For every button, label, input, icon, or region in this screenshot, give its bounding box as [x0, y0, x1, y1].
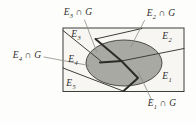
label-region-e5-sub: 5	[72, 83, 75, 90]
label-e1-intersect-g-rest: ∩ G	[157, 98, 176, 108]
label-e3-intersect-g: E3 ∩ G	[64, 8, 93, 18]
label-region-e1: E1	[162, 72, 171, 82]
label-region-e4: E4	[68, 55, 77, 65]
label-e2-intersect-g-rest: ∩ G	[156, 8, 175, 18]
label-e3-intersect-g-sub: 3	[70, 12, 73, 19]
label-region-e3: E3	[71, 30, 80, 40]
label-e4-intersect-g: E4 ∩ G	[13, 51, 42, 61]
label-e4-intersect-g-sub: 4	[19, 55, 22, 62]
label-region-e4-sub: 4	[74, 59, 77, 66]
label-e1-intersect-g-sub: 1	[154, 103, 157, 110]
label-e2-intersect-g: E2 ∩ G	[147, 9, 176, 19]
label-region-e2-sub: 2	[168, 36, 171, 43]
label-e3-intersect-g-rest: ∩ G	[73, 7, 92, 17]
label-region-e5: E5	[66, 79, 75, 89]
total-probability-diagram: E3 ∩ G E2 ∩ G E4 ∩ G E1 ∩ G E3 E2 E4 E5 …	[0, 0, 196, 123]
label-e4-intersect-g-rest: ∩ G	[22, 50, 41, 60]
label-region-e2: E2	[162, 32, 171, 42]
label-e1-intersect-g: E1 ∩ G	[148, 99, 177, 109]
label-region-e1-sub: 1	[168, 76, 171, 83]
label-region-e3-sub: 3	[77, 34, 80, 41]
label-e2-intersect-g-sub: 2	[153, 13, 156, 20]
